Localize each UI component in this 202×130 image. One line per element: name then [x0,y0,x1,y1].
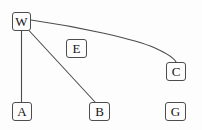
node-a-label: A [17,105,26,118]
node-b[interactable]: B [89,102,110,121]
node-b-label: B [95,105,104,118]
node-g-label: G [171,105,180,118]
node-g[interactable]: G [165,102,186,121]
node-w-label: W [15,15,27,28]
node-w[interactable]: W [12,12,31,31]
node-c[interactable]: C [166,62,186,81]
graph-diagram: W E C A B G [0,0,202,130]
node-c-label: C [172,65,181,78]
node-e[interactable]: E [66,39,87,58]
node-a[interactable]: A [12,102,32,121]
node-e-label: E [73,42,81,55]
